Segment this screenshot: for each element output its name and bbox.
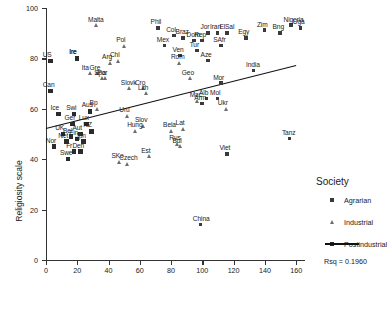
point-label: Swi bbox=[66, 104, 76, 111]
data-point bbox=[206, 31, 210, 35]
y-tick-label: 40 bbox=[12, 155, 38, 164]
x-tick bbox=[140, 261, 141, 265]
data-point bbox=[163, 44, 167, 48]
y-axis-label: Religiosity scale bbox=[14, 126, 24, 256]
point-label: US bbox=[43, 51, 52, 58]
data-point bbox=[72, 149, 76, 153]
point-label: Ice bbox=[51, 104, 60, 111]
point-label: Malta bbox=[88, 16, 104, 23]
point-label: Ita bbox=[82, 64, 89, 71]
data-point bbox=[125, 114, 129, 118]
data-point bbox=[75, 56, 79, 60]
data-point bbox=[169, 129, 173, 133]
data-point bbox=[103, 76, 107, 80]
data-point bbox=[89, 129, 93, 133]
data-point bbox=[225, 31, 229, 35]
x-tick-label: 60 bbox=[128, 266, 152, 275]
legend-label: Industrial bbox=[344, 218, 373, 227]
x-tick-label: 40 bbox=[97, 266, 121, 275]
data-point bbox=[195, 49, 199, 53]
point-label: Mor bbox=[213, 74, 224, 81]
point-label: Swe bbox=[60, 149, 73, 156]
data-point bbox=[94, 23, 98, 27]
data-point bbox=[122, 44, 126, 48]
data-point bbox=[81, 139, 85, 143]
point-label: Est bbox=[141, 147, 150, 154]
point-label: India bbox=[246, 61, 260, 68]
point-label: Hung bbox=[127, 121, 142, 128]
point-label: Ire bbox=[69, 48, 76, 55]
data-point bbox=[219, 44, 223, 48]
data-point bbox=[181, 36, 185, 40]
x-tick-label: 160 bbox=[284, 266, 308, 275]
x-tick-label: 20 bbox=[65, 266, 89, 275]
legend-fit-line-swatch bbox=[325, 243, 359, 245]
legend-marker bbox=[330, 220, 334, 224]
data-point bbox=[88, 109, 92, 113]
point-label: Net bbox=[58, 132, 68, 139]
data-point bbox=[278, 31, 282, 35]
scatter-chart: Religiosity scale 020406080100 020406080… bbox=[0, 0, 392, 311]
legend-marker bbox=[330, 198, 334, 202]
x-tick bbox=[202, 261, 203, 265]
point-label: Lith bbox=[138, 84, 148, 91]
data-point bbox=[199, 223, 203, 227]
data-point bbox=[78, 149, 82, 153]
point-label: Ukr bbox=[218, 99, 228, 106]
point-label: ElSal bbox=[219, 23, 234, 30]
data-point bbox=[181, 127, 185, 131]
point-label: Bng bbox=[273, 23, 284, 30]
point-label: Lux bbox=[79, 114, 89, 121]
point-label: Nor bbox=[46, 137, 56, 144]
point-label: Jor bbox=[201, 23, 210, 30]
data-point bbox=[188, 76, 192, 80]
data-point bbox=[178, 144, 182, 148]
point-label: Mol bbox=[210, 89, 220, 96]
point-label: Phil bbox=[151, 18, 162, 25]
point-label: NZ bbox=[83, 121, 92, 128]
x-tick bbox=[77, 261, 78, 265]
point-label: Aut bbox=[72, 124, 82, 131]
data-point bbox=[219, 81, 223, 85]
data-point bbox=[252, 69, 256, 73]
point-label: Uru bbox=[119, 106, 129, 113]
data-point bbox=[200, 39, 204, 43]
point-label: Aze bbox=[201, 51, 212, 58]
data-point bbox=[263, 28, 267, 32]
point-label: Zim bbox=[257, 21, 268, 28]
x-tick bbox=[234, 261, 235, 265]
point-label: Ven bbox=[172, 46, 183, 53]
point-label: Uga bbox=[293, 18, 305, 25]
point-label: China bbox=[193, 215, 210, 222]
data-point bbox=[64, 139, 68, 143]
y-tick-label: 100 bbox=[12, 4, 38, 13]
data-point bbox=[133, 129, 137, 133]
legend-label: Agrarian bbox=[344, 196, 371, 205]
data-point bbox=[225, 152, 229, 156]
data-point bbox=[206, 59, 210, 63]
data-point bbox=[147, 154, 151, 158]
plot-area: PhilColBrazDomRepJorIranElSalSAfrEgyZimB… bbox=[46, 8, 304, 260]
data-point bbox=[299, 26, 303, 30]
data-point bbox=[52, 144, 56, 148]
y-tick-label: 20 bbox=[12, 206, 38, 215]
point-label: Czech bbox=[119, 154, 137, 161]
point-label: Ger bbox=[65, 114, 76, 121]
data-point bbox=[108, 61, 112, 65]
point-label: Chl bbox=[110, 51, 120, 58]
rsq-label: Rsq = 0.1960 bbox=[324, 257, 367, 266]
x-tick bbox=[265, 261, 266, 265]
point-label: Tur bbox=[190, 41, 199, 48]
point-label: SAfr bbox=[213, 36, 225, 43]
point-label: Bela bbox=[163, 121, 176, 128]
x-tick bbox=[171, 261, 172, 265]
data-point bbox=[177, 61, 181, 65]
point-label: Geo bbox=[182, 69, 194, 76]
point-label: Mex bbox=[157, 36, 169, 43]
x-axis-line bbox=[46, 260, 305, 261]
x-tick-label: 140 bbox=[253, 266, 277, 275]
data-point bbox=[48, 59, 52, 63]
data-point bbox=[125, 162, 129, 166]
data-point bbox=[116, 59, 120, 63]
data-point bbox=[127, 86, 131, 90]
